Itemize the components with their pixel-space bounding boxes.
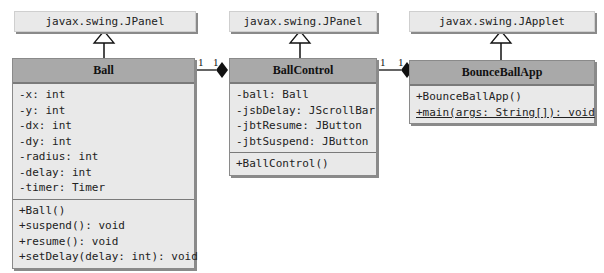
methods-section: +BallControl() [230,152,376,175]
multiplicity-ballcontrol-side: 1 [213,56,219,68]
field: -x: int [19,87,194,103]
method: +BounceBallApp() [416,89,594,105]
method: +Ball() [19,203,194,219]
method: +suspend(): void [19,218,194,234]
method: +setDelay(delay: int): void [19,249,194,265]
multiplicity-bounceballapp-side: 1 [398,56,404,68]
fields-section: -x: int -y: int -dx: int -dy: int -radiu… [13,84,194,199]
field: -delay: int [19,165,194,181]
methods-section: +Ball() +suspend(): void +resume(): void… [13,199,194,268]
class-name: Ball [13,59,194,84]
superclass-jpanel-ballcontrol: javax.swing.JPanel [229,11,377,32]
field: -dx: int [19,118,194,134]
class-ballcontrol: BallControl -ball: Ball -jsbDelay: JScro… [229,58,377,176]
class-bounceballapp: BounceBallApp +BounceBallApp() +main(arg… [409,60,595,124]
superclass-jpanel-ball: javax.swing.JPanel [14,11,196,32]
field: -dy: int [19,134,194,150]
multiplicity-ball-side: 1 [198,56,204,68]
methods-section: +BounceBallApp() +main(args: String[]): … [410,86,594,123]
superclass-japplet-bounceballapp: javax.swing.JApplet [409,11,595,32]
class-ball: Ball -x: int -y: int -dx: int -dy: int -… [12,58,195,269]
field: -y: int [19,103,194,119]
generalization-arrow-bounceballapp [491,31,511,60]
fields-section: -ball: Ball -jsbDelay: JScrollBar -jbtRe… [230,84,376,152]
static-method: +main(args: String[]): void [416,105,594,121]
field: -jbtSuspend: JButton [236,134,376,150]
field: -jbtResume: JButton [236,118,376,134]
generalization-arrow-ball [94,31,114,58]
generalization-arrow-ballcontrol [290,31,310,58]
method: +BallControl() [236,156,376,172]
field: -radius: int [19,149,194,165]
method: +resume(): void [19,234,194,250]
field: -ball: Ball [236,87,376,103]
field: -jsbDelay: JScrollBar [236,103,376,119]
field: -timer: Timer [19,180,194,196]
class-name: BallControl [230,59,376,84]
class-name: BounceBallApp [410,61,594,86]
multiplicity-ballcontrol-app-side: 1 [380,56,386,68]
